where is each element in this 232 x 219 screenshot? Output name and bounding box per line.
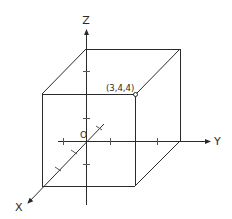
cube-edge-depth-top-left [42, 49, 86, 94]
y-axis-label: Y [213, 135, 221, 148]
cube [42, 49, 181, 187]
point-coordinate-label: (3,4,4) [106, 83, 134, 93]
axes [28, 30, 210, 205]
point-marker [134, 93, 138, 97]
cube-edge-depth-top-right [137, 49, 180, 93]
x-axis [28, 124, 104, 203]
cube-edge-depth-bottom-right [135, 141, 180, 186]
x-axis-label: X [15, 201, 23, 214]
z-axis-label: Z [82, 14, 90, 27]
origin-label: O [80, 130, 87, 140]
cube-diagram: Z Y X O (3,4,4) [0, 0, 232, 219]
